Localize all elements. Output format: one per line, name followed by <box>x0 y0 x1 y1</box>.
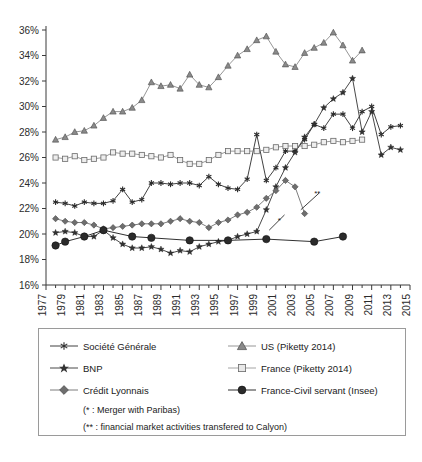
diamond-shape <box>244 209 250 215</box>
data-point-triangle <box>330 29 336 35</box>
data-point-solid-star <box>119 241 125 247</box>
chart-legend: Société Générale BNP Crédit Lyonnais <box>38 328 406 436</box>
triangle-shape <box>330 29 336 35</box>
data-point-triangle <box>139 97 145 103</box>
data-point-circle <box>339 233 346 240</box>
series-5 <box>53 137 365 166</box>
triangle-shape <box>81 127 87 133</box>
data-point-square <box>158 155 163 160</box>
square-shape <box>302 143 307 148</box>
square-shape <box>120 151 125 156</box>
legend-item-credit-lyonnais: Crédit Lyonnais <box>49 383 149 397</box>
y-tick-label: 30% <box>19 101 39 112</box>
data-point-circle <box>148 234 155 241</box>
data-point-square <box>63 156 68 161</box>
square-shape <box>245 149 250 154</box>
x-tick-label: 1995 <box>209 294 220 317</box>
diamond-shape <box>81 219 87 225</box>
data-point-triangle <box>167 82 173 88</box>
data-point-diamond <box>196 219 202 225</box>
square-shape <box>340 140 345 145</box>
x-tick-label: 2005 <box>305 294 316 317</box>
star-shape <box>139 245 145 251</box>
square-shape <box>264 147 269 152</box>
x-tick-label: 1997 <box>229 294 240 317</box>
triangle-shape <box>62 134 68 140</box>
triangle-shape <box>187 71 193 77</box>
data-point-square <box>110 150 115 155</box>
data-point-triangle <box>91 122 97 128</box>
diamond-shape <box>148 221 154 227</box>
data-point-square <box>130 151 135 156</box>
x-tick-label: 2013 <box>382 294 393 317</box>
diamond-shape <box>139 221 145 227</box>
star-shape <box>215 238 221 244</box>
data-point-diamond <box>234 212 240 218</box>
data-point-diamond <box>129 222 135 228</box>
square-shape <box>178 157 183 162</box>
legend-label-credit-lyonnais: Crédit Lyonnais <box>79 385 149 396</box>
circle-shape <box>339 233 346 240</box>
data-point-diamond <box>167 218 173 224</box>
square-shape <box>292 143 297 148</box>
y-tick-label: 34% <box>19 50 39 61</box>
square-shape <box>139 152 144 157</box>
y-tick-label: 20% <box>19 229 39 240</box>
star-shape <box>206 241 212 247</box>
diamond-shape <box>215 219 221 225</box>
data-point-solid-star <box>148 243 154 249</box>
y-tick-label: 24% <box>19 178 39 189</box>
data-point-square <box>82 157 87 162</box>
square-shape <box>63 156 68 161</box>
data-point-solid-star <box>167 250 173 256</box>
data-point-solid-star <box>206 241 212 247</box>
data-point-circle <box>186 237 193 244</box>
diamond-shape <box>129 222 135 228</box>
data-point-triangle <box>187 71 193 77</box>
legend-label-france-piketty: France (Piketty 2014) <box>257 363 352 374</box>
data-point-solid-star <box>397 147 403 153</box>
x-tick-label: 1979 <box>56 294 67 317</box>
star-shape <box>359 129 365 135</box>
diamond-shape <box>167 218 173 224</box>
data-point-square <box>139 152 144 157</box>
square-shape <box>149 154 154 159</box>
star-shape <box>148 243 154 249</box>
data-point-square <box>321 140 326 145</box>
x-tick-label: 2009 <box>344 294 355 317</box>
square-shape <box>360 137 365 142</box>
data-point-triangle <box>62 134 68 140</box>
star-shape <box>234 233 240 239</box>
square-shape <box>273 145 278 150</box>
data-point-diamond <box>91 222 97 228</box>
data-point-circle <box>311 238 318 245</box>
y-tick-label: 32% <box>19 76 39 87</box>
data-point-solid-star <box>139 245 145 251</box>
x-tick-label: 2003 <box>286 294 297 317</box>
data-point-square <box>216 152 221 157</box>
y-tick-label: 16% <box>19 280 39 291</box>
square-shape <box>206 157 211 162</box>
data-point-circle <box>52 242 59 249</box>
data-point-diamond <box>81 219 87 225</box>
data-point-diamond <box>225 217 231 223</box>
data-point-diamond <box>302 211 308 217</box>
diamond-shape <box>177 216 183 222</box>
legend-sample-square-icon <box>227 361 257 375</box>
series-line <box>56 107 401 206</box>
series-line <box>56 78 401 253</box>
square-shape <box>331 138 336 143</box>
circle-shape <box>148 234 155 241</box>
diamond-shape <box>120 223 126 229</box>
triangle-shape <box>311 45 317 51</box>
data-point-square <box>264 147 269 152</box>
data-point-diamond <box>52 216 58 222</box>
y-tick-label: 36% <box>19 25 39 36</box>
data-point-square <box>149 154 154 159</box>
chart-plot-area: 16%18%20%22%24%26%28%30%32%34%36%1977197… <box>0 0 422 318</box>
square-shape <box>197 161 202 166</box>
data-point-diamond <box>158 221 164 227</box>
diamond-shape <box>110 225 116 231</box>
triangle-shape <box>148 79 154 85</box>
square-shape <box>168 152 173 157</box>
